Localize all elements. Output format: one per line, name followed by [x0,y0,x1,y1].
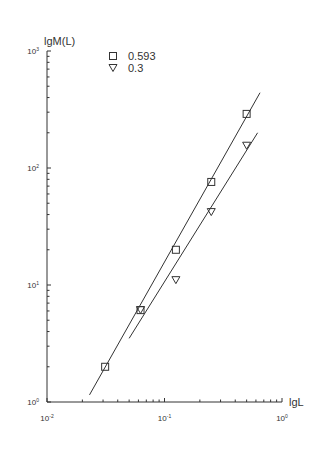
tick-label: 100 [276,413,288,423]
loglog-chart: 10-210-1100100101102103lgLlgM(L) 0.5930.… [0,0,324,449]
y-axis-label: lgM(L) [44,35,75,47]
tick-label: 101 [27,280,39,290]
triangle-marker [172,277,180,284]
tick-label: 10-1 [158,413,172,423]
square-marker [172,246,179,253]
legend: 0.5930.3 [109,50,156,74]
axes: 10-210-1100100101102103lgLlgM(L) [27,35,303,423]
tick-label: 10-2 [40,413,54,423]
plot-area [90,93,261,395]
square-marker [110,53,117,60]
tick-label: 100 [27,397,39,407]
tick-label: 103 [27,46,39,56]
fit-line [90,93,261,395]
x-axis-label: lgL [289,396,304,408]
tick-label: 102 [27,163,39,173]
legend-label: 0.3 [128,62,143,74]
fit-line [129,133,257,339]
legend-label: 0.593 [128,50,156,62]
triangle-marker [109,65,117,72]
